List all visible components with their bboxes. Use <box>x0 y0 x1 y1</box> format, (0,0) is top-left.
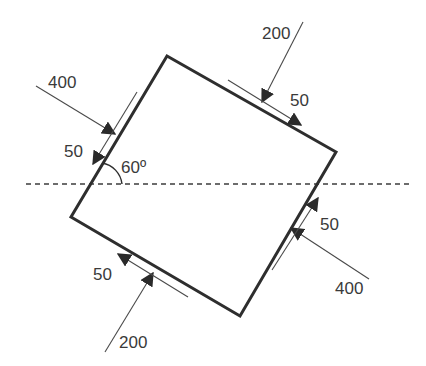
normal-force-arrow-400-right <box>291 228 369 279</box>
shear-stress-label-left: 50 <box>64 142 83 161</box>
face-upper-left: 400 50 <box>36 73 137 164</box>
angle-arc <box>102 163 122 184</box>
shear-arrow-50-left <box>93 92 137 164</box>
normal-stress-label-top: 200 <box>262 24 290 43</box>
normal-force-arrow-400-left <box>36 86 115 134</box>
face-lower-left: 200 50 <box>93 254 188 352</box>
shear-stress-label-top: 50 <box>290 91 309 110</box>
shear-arrow-50-right <box>272 198 318 270</box>
shear-stress-label-bottom: 50 <box>93 265 112 284</box>
normal-stress-label-bottom: 200 <box>119 333 147 352</box>
normal-stress-label-left: 400 <box>48 73 76 92</box>
shear-stress-label-right: 50 <box>320 215 339 234</box>
face-upper-right: 200 50 <box>228 22 309 125</box>
angle-label: 60º <box>121 158 146 177</box>
normal-stress-label-right: 400 <box>335 279 363 298</box>
stress-element-diagram: 60º 400 50 200 50 200 50 400 50 <box>0 0 426 366</box>
face-lower-right: 400 50 <box>272 198 369 298</box>
shear-arrow-50-bottom <box>118 254 188 297</box>
